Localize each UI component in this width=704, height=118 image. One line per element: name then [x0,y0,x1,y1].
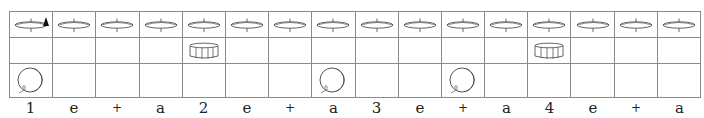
snare-cell-16[interactable] [658,38,701,64]
hihat-icon [445,16,481,34]
count-label: + [96,99,139,117]
hihat-icon [315,16,351,34]
bass-drum-cell-2[interactable] [53,64,96,98]
snare-cell-14[interactable] [571,38,614,64]
bass-drum-cell-16[interactable] [658,64,701,98]
hihat-cell-13[interactable] [528,12,571,38]
count-label: a [485,99,528,117]
snare-cell-12[interactable] [485,38,528,64]
hihat-icon [531,16,567,34]
snare-icon [188,42,220,60]
count-labels: 1e+a2e+a3e+a4e+a [9,99,701,117]
bass-drum-cell-14[interactable] [571,64,614,98]
count-label: + [442,99,485,117]
hihat-icon [488,16,524,34]
bass-drum-icon [447,65,479,97]
bass-drum-cell-4[interactable] [140,64,183,98]
hihat-cell-16[interactable] [658,12,701,38]
hihat-cell-14[interactable] [571,12,614,38]
bass-drum-cell-10[interactable] [399,64,442,98]
snare-cell-6[interactable] [226,38,269,64]
count-label: e [225,99,268,117]
bass-drum-cell-6[interactable] [226,64,269,98]
snare-icon [533,42,565,60]
count-label: a [658,99,701,117]
count-label: + [269,99,312,117]
snare-cell-13[interactable] [528,38,571,64]
hihat-icon [186,16,222,34]
hihat-cell-1[interactable] [10,12,53,38]
count-label: + [615,99,658,117]
hihat-cell-9[interactable] [356,12,399,38]
bass-drum-icon [317,65,349,97]
bass-drum-cell-7[interactable] [269,64,312,98]
hihat-cell-15[interactable] [615,12,658,38]
bass-drum-cell-11[interactable] [442,64,485,98]
bass-drum-cell-1[interactable] [10,64,53,98]
bass-drum-cell-8[interactable] [312,64,355,98]
count-label: 2 [182,99,225,117]
snare-cell-2[interactable] [53,38,96,64]
hihat-cell-3[interactable] [96,12,139,38]
count-label: e [398,99,441,117]
beat-grid [9,11,701,98]
snare-cell-3[interactable] [96,38,139,64]
bass-drum-cell-3[interactable] [96,64,139,98]
snare-cell-11[interactable] [442,38,485,64]
bass-drum-icon [15,65,47,97]
hihat-icon [272,16,308,34]
count-label: 4 [528,99,571,117]
snare-cell-5[interactable] [183,38,226,64]
hihat-cell-2[interactable] [53,12,96,38]
hihat-icon [143,16,179,34]
snare-cell-4[interactable] [140,38,183,64]
hihat-cell-11[interactable] [442,12,485,38]
count-label: 3 [355,99,398,117]
hihat-cell-10[interactable] [399,12,442,38]
bass-drum-cell-13[interactable] [528,64,571,98]
hihat-icon [402,16,438,34]
bass-drum-cell-12[interactable] [485,64,528,98]
hihat-cell-6[interactable] [226,12,269,38]
hihat-icon [618,16,654,34]
snare-cell-15[interactable] [615,38,658,64]
hihat-icon [56,16,92,34]
hihat-icon [661,16,697,34]
drum-pattern: 1e+a2e+a3e+a4e+a [9,11,701,117]
snare-cell-1[interactable] [10,38,53,64]
snare-cell-9[interactable] [356,38,399,64]
hihat-icon [99,16,135,34]
bass-drum-cell-5[interactable] [183,64,226,98]
hihat-cell-4[interactable] [140,12,183,38]
hihat-cell-8[interactable] [312,12,355,38]
snare-cell-10[interactable] [399,38,442,64]
count-label: e [571,99,614,117]
accent-icon [43,17,49,26]
hihat-icon [229,16,265,34]
snare-cell-7[interactable] [269,38,312,64]
snare-cell-8[interactable] [312,38,355,64]
hihat-icon [575,16,611,34]
hihat-cell-7[interactable] [269,12,312,38]
count-label: e [52,99,95,117]
count-label: a [139,99,182,117]
hihat-cell-12[interactable] [485,12,528,38]
count-label: 1 [9,99,52,117]
hihat-cell-5[interactable] [183,12,226,38]
hihat-icon [359,16,395,34]
bass-drum-cell-15[interactable] [615,64,658,98]
count-label: a [312,99,355,117]
bass-drum-cell-9[interactable] [356,64,399,98]
